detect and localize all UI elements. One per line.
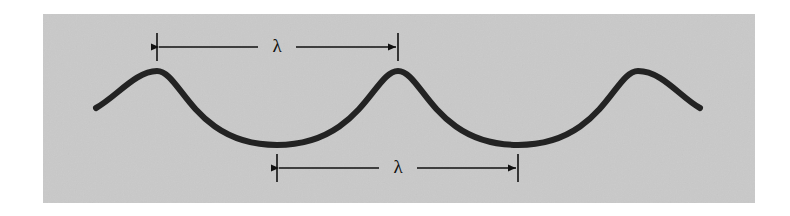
wavelength-figure: λ λ	[0, 0, 790, 216]
lambda-label-top: λ	[272, 35, 282, 56]
figure-container: λ λ	[0, 0, 790, 216]
lambda-label-bottom: λ	[393, 156, 403, 177]
